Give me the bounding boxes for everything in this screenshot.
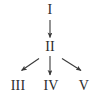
node-label-iii: III — [11, 79, 26, 93]
node-label-v: V — [79, 79, 89, 93]
edge-II-to-III — [22, 59, 40, 71]
edge-II-to-V — [62, 59, 81, 71]
node-label-ii: II — [45, 40, 55, 54]
node-label-i: I — [48, 3, 53, 17]
node-label-iv: IV — [43, 79, 58, 93]
roman-numeral-flow-diagram: I II III IV V — [0, 0, 100, 97]
